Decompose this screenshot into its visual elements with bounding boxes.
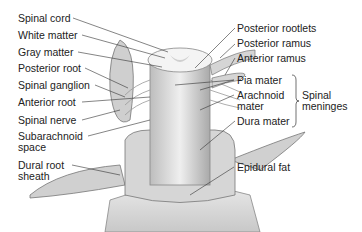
label-anterior-root: Anterior root (18, 97, 76, 108)
label-epidural-fat: Epidural fat (237, 162, 290, 173)
label-subarachnoid-space: Subarachnoid space (18, 131, 88, 153)
label-posterior-root: Posterior root (18, 63, 81, 74)
label-dural-root-sheath: Dural root sheath (18, 160, 78, 182)
label-arachnoid-mater: Arachnoid mater (237, 90, 289, 112)
label-anterior-ramus: Anterior ramus (237, 53, 306, 64)
label-white-matter: White matter (18, 30, 78, 41)
label-pia-mater: Pia mater (237, 75, 282, 86)
label-spinal-ganglion: Spinal ganglion (18, 80, 90, 91)
label-posterior-rootlets: Posterior rootlets (237, 23, 316, 34)
meninges-bracket (292, 75, 299, 127)
label-spinal-cord: Spinal cord (18, 13, 71, 24)
label-dura-mater: Dura mater (237, 116, 290, 127)
label-posterior-ramus: Posterior ramus (237, 38, 311, 49)
label-gray-matter: Gray matter (18, 47, 73, 58)
cord-column (150, 60, 210, 185)
label-spinal-meninges: Spinal meninges (302, 90, 358, 112)
label-spinal-nerve: Spinal nerve (18, 115, 76, 126)
